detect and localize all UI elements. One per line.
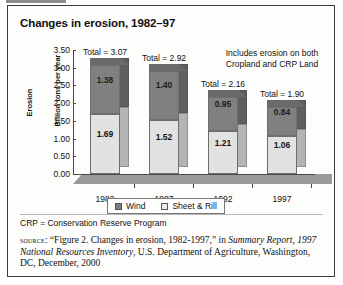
y-tick-label: 2.50 [53,80,70,90]
x-axis-line [73,174,315,175]
y-tick-mark [73,103,76,104]
x-tick-mark [193,184,194,188]
y-tick-label: 1.00 [53,134,70,144]
bar-value-sheet-rill: 1.69 [90,129,120,139]
legend-label: Wind [126,201,145,211]
bar-total-label: Total = 3.07 [78,47,132,57]
bar-1987: 1.521.40 [149,71,179,174]
source-label: source [20,235,45,245]
legend-item-wind: Wind [115,201,145,211]
y-tick-label: 3.50 [53,45,70,55]
bar-side-sheet-rill [238,124,247,167]
y-tick-mark [73,174,76,175]
bar-segment-sheet-rill [149,120,179,174]
bar-total-label: Total = 2.16 [196,79,250,89]
page-crop-rule [6,0,66,3]
y-axis-tick-labels: 3.503.002.502.001.501.000.500.00 [40,50,70,174]
annotation-line-1: Includes erosion on both [214,48,330,59]
bar-value-wind: 0.84 [267,107,297,117]
bar-segment-wind [149,71,179,121]
y-tick-mark [73,85,76,86]
bar-total-label: Total = 1.90 [255,89,309,99]
bar-1992: 1.210.95 [208,97,238,174]
bar-top-face [90,58,129,65]
legend-swatch-icon [115,203,122,210]
bar-side-sheet-rill [179,113,188,167]
bar-value-sheet-rill: 1.21 [208,138,238,148]
bar-1997: 1.060.84 [267,107,297,174]
crp-footnote: CRP = Conservation Reserve Program [20,218,167,228]
floor-surface [73,174,332,184]
source-in-word: in [216,235,228,245]
x-tick-mark [134,184,135,188]
y-tick-mark [73,68,76,69]
y-tick-mark [73,139,76,140]
bar-side-wind [120,58,129,107]
bar-top-face [149,64,188,71]
bar-side-sheet-rill [297,129,306,167]
page-title: Changes in erosion, 1982–97 [20,17,175,29]
bar-side-sheet-rill [120,107,129,167]
y-tick-label: 2.00 [53,98,70,108]
bar-segment-sheet-rill [90,114,120,174]
legend-label: Sheet & Rill [172,201,216,211]
x-tick-mark [311,184,312,188]
y-tick-mark [73,156,76,157]
chart-legend: WindSheet & Rill [107,198,225,214]
y-tick-label: 3.00 [53,63,70,73]
bar-value-sheet-rill: 1.52 [149,132,179,142]
y-tick-label: 0.50 [53,151,70,161]
y-tick-label: 0.00 [53,169,70,179]
source-quote: “Figure 2. Changes in erosion, 1982-1997… [50,235,216,245]
legend-item-sheet-rill: Sheet & Rill [161,201,216,211]
bar-1982: 1.691.38 [90,65,120,174]
chart-annotation: Includes erosion on both Cropland and CR… [214,48,330,70]
legend-swatch-icon [161,203,168,210]
chart-plot-area: Erosion Billion tons per year 3.503.002.… [18,42,326,192]
x-tick-mark [252,184,253,188]
source-note: source: “Figure 2. Changes in erosion, 1… [20,235,322,270]
bar-value-wind: 1.38 [90,75,120,85]
figure-container: Changes in erosion, 1982–97 Erosion Bill… [7,5,335,277]
bar-total-label: Total = 2.92 [137,53,191,63]
y-tick-mark [73,50,76,51]
chart-floor [73,174,323,185]
annotation-line-2: Cropland and CRP Land [214,59,330,70]
y-tick-label: 1.50 [53,116,70,126]
y-axis-title-line1: Erosion [25,75,34,131]
bar-value-wind: 1.40 [149,80,179,90]
divider-rule [20,214,323,215]
bar-segment-wind [90,65,120,114]
y-tick-mark [73,121,76,122]
bar-side-wind [179,64,188,114]
bar-value-sheet-rill: 1.06 [267,140,297,150]
bar-value-wind: 0.95 [208,99,238,109]
bar-top-face [208,90,247,97]
x-tick-label-1997: 1997 [257,194,307,204]
